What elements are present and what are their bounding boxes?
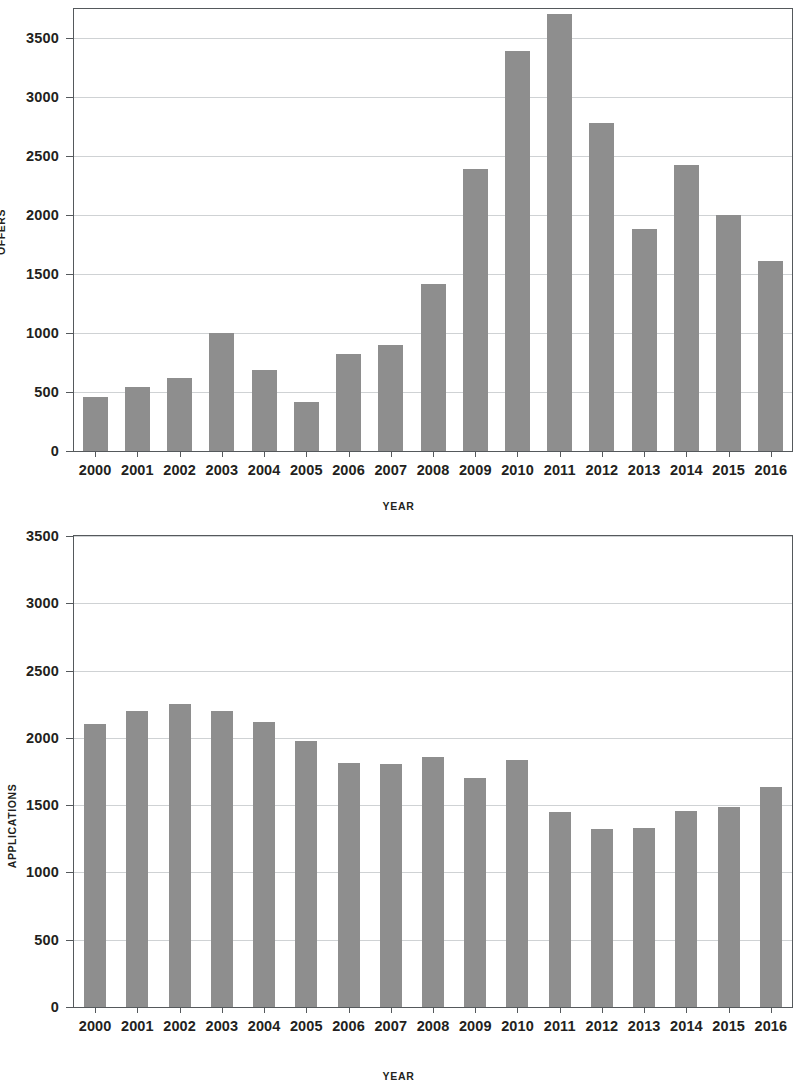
y-axis-tick bbox=[66, 333, 73, 334]
y-axis-tick bbox=[66, 872, 73, 873]
x-axis-tick-label: 2002 bbox=[163, 462, 196, 478]
bar-2009 bbox=[463, 169, 488, 451]
y-axis-tick-label: 3000 bbox=[0, 89, 59, 105]
x-axis-tick-label: 2011 bbox=[544, 1018, 576, 1034]
bar-2000 bbox=[83, 397, 108, 451]
x-axis-tick bbox=[644, 1007, 645, 1013]
y-axis-tick-label: 2500 bbox=[0, 148, 59, 164]
y-axis-tick bbox=[66, 156, 73, 157]
x-axis-title-offers: YEAR bbox=[0, 500, 797, 512]
x-axis-tick-label: 2005 bbox=[290, 1018, 323, 1034]
y-axis-tick bbox=[66, 603, 73, 604]
figure-two-bar-charts: OFFERS YEAR 0500100015002000250030003500… bbox=[0, 0, 797, 1083]
bar-2009 bbox=[464, 778, 486, 1007]
x-axis-tick-label: 2010 bbox=[501, 1018, 534, 1034]
x-axis-tick bbox=[264, 1007, 265, 1013]
x-axis-tick bbox=[349, 451, 350, 457]
y-axis-tick-label: 500 bbox=[0, 932, 59, 948]
x-axis-tick-label: 2007 bbox=[374, 1018, 407, 1034]
x-axis-tick-label: 2006 bbox=[332, 1018, 365, 1034]
bar-2002 bbox=[169, 704, 191, 1007]
x-axis-tick-label: 2009 bbox=[459, 462, 492, 478]
x-axis-tick-label: 2000 bbox=[79, 462, 112, 478]
bar-2008 bbox=[422, 757, 444, 1007]
x-axis-tick bbox=[137, 1007, 138, 1013]
x-axis-tick bbox=[686, 451, 687, 457]
bar-2011 bbox=[547, 14, 572, 451]
plot-area-offers bbox=[73, 8, 793, 452]
x-axis-title-applications: YEAR bbox=[0, 1070, 797, 1082]
plot-area-applications bbox=[73, 535, 793, 1008]
x-axis-tick-label: 2001 bbox=[121, 462, 154, 478]
x-axis-tick-label: 2008 bbox=[417, 1018, 450, 1034]
bars-applications bbox=[74, 536, 792, 1007]
x-axis-tick bbox=[433, 1007, 434, 1013]
y-axis-tick-label: 3000 bbox=[0, 595, 59, 611]
bar-2012 bbox=[589, 123, 614, 451]
y-axis-tick bbox=[66, 1007, 73, 1008]
bar-2015 bbox=[718, 807, 740, 1008]
x-axis-tick bbox=[686, 1007, 687, 1013]
bar-2013 bbox=[632, 229, 657, 451]
chart-applications: APPLICATIONS YEAR 0500100015002000250030… bbox=[0, 520, 797, 1083]
y-axis-tick-label: 3500 bbox=[0, 528, 59, 544]
bar-2010 bbox=[505, 51, 530, 451]
x-axis-tick-label: 2015 bbox=[712, 1018, 745, 1034]
x-axis-tick-label: 2013 bbox=[628, 1018, 661, 1034]
x-axis-tick bbox=[771, 1007, 772, 1013]
x-axis-tick-label: 2004 bbox=[248, 1018, 281, 1034]
bar-2003 bbox=[209, 333, 234, 451]
x-axis-tick bbox=[602, 1007, 603, 1013]
x-axis-tick bbox=[180, 451, 181, 457]
x-axis-tick bbox=[391, 1007, 392, 1013]
bar-2005 bbox=[294, 402, 319, 451]
x-axis-tick-label: 2013 bbox=[628, 462, 661, 478]
bar-2003 bbox=[211, 711, 233, 1007]
x-axis-tick bbox=[517, 451, 518, 457]
x-axis-tick-label: 2005 bbox=[290, 462, 323, 478]
bar-2016 bbox=[760, 787, 782, 1007]
y-axis-tick bbox=[66, 215, 73, 216]
bar-2014 bbox=[675, 811, 697, 1007]
bar-2008 bbox=[421, 284, 446, 451]
x-axis-tick-label: 2008 bbox=[417, 462, 450, 478]
x-axis-tick bbox=[560, 1007, 561, 1013]
x-axis-tick-label: 2003 bbox=[205, 462, 238, 478]
y-axis-tick bbox=[66, 738, 73, 739]
bar-2015 bbox=[716, 215, 741, 451]
bar-2004 bbox=[253, 722, 275, 1007]
x-axis-tick bbox=[222, 1007, 223, 1013]
x-axis-tick bbox=[391, 451, 392, 457]
x-axis-tick bbox=[475, 1007, 476, 1013]
x-axis-tick bbox=[729, 451, 730, 457]
x-axis-tick-label: 2014 bbox=[670, 462, 703, 478]
y-axis-tick-label: 500 bbox=[0, 384, 59, 400]
y-axis-tick-label: 3500 bbox=[0, 30, 59, 46]
x-axis-tick bbox=[222, 451, 223, 457]
bar-2007 bbox=[378, 345, 403, 451]
bar-2016 bbox=[758, 261, 783, 451]
x-axis-tick bbox=[771, 451, 772, 457]
bars-offers bbox=[74, 9, 792, 451]
y-axis-tick bbox=[66, 940, 73, 941]
x-axis-tick bbox=[180, 1007, 181, 1013]
x-axis-tick-label: 2010 bbox=[501, 462, 534, 478]
x-axis-tick bbox=[95, 451, 96, 457]
bar-2011 bbox=[549, 812, 571, 1007]
x-axis-tick-label: 2003 bbox=[205, 1018, 238, 1034]
bar-2001 bbox=[125, 387, 150, 451]
bar-2002 bbox=[167, 378, 192, 451]
x-axis-tick-label: 2011 bbox=[544, 462, 576, 478]
x-axis-tick-label: 2007 bbox=[374, 462, 407, 478]
x-axis-tick-label: 2012 bbox=[586, 462, 619, 478]
y-axis-tick bbox=[66, 805, 73, 806]
x-axis-tick bbox=[306, 1007, 307, 1013]
y-axis-tick-label: 2500 bbox=[0, 663, 59, 679]
x-axis-tick bbox=[644, 451, 645, 457]
x-axis-tick-label: 2004 bbox=[248, 462, 281, 478]
bar-2007 bbox=[380, 764, 402, 1007]
y-axis-tick-label: 1000 bbox=[0, 864, 59, 880]
bar-2013 bbox=[633, 828, 655, 1007]
y-axis-tick bbox=[66, 38, 73, 39]
y-axis-tick bbox=[66, 274, 73, 275]
